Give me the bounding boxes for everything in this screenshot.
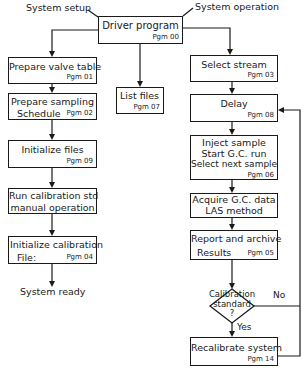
system-operation-label: System operation [195, 1, 279, 12]
list-files-label: List files [120, 90, 159, 101]
initialize-calibration-pgm: Pgm 04 [66, 253, 93, 261]
inject-sample-label-3: Select next sample [191, 159, 277, 170]
system-setup-label: System setup [26, 2, 91, 13]
prepare-sampling-label: Prepare sampling [9, 96, 96, 107]
initialize-files-box: Initialize files Pgm 09 [8, 140, 97, 168]
report-archive-label-2: Results [197, 247, 231, 258]
initialize-calibration-label: Initialize calibration [10, 239, 103, 250]
recalibrate-label: Recalibrate system [191, 342, 277, 353]
recalibrate-pgm: Pgm 14 [247, 355, 274, 363]
decision-label-3: ? [205, 309, 259, 318]
prepare-valve-table-label: Prepare valve table [9, 61, 96, 72]
driver-program-box: Driver program Pgm 00 [98, 16, 183, 44]
list-files-pgm: Pgm 07 [133, 103, 160, 111]
select-stream-pgm: Pgm 03 [247, 71, 274, 79]
run-calibration-box: Run calibration std manual operation [8, 188, 97, 214]
driver-program-pgm: Pgm 00 [152, 33, 179, 41]
acquire-gc-data-label-2: LAS method [191, 205, 277, 216]
system-ready-label: System ready [20, 286, 85, 297]
delay-box: Delay Pgm 08 [190, 94, 278, 122]
report-archive-pgm: Pgm 05 [247, 249, 274, 257]
initialize-files-pgm: Pgm 09 [66, 157, 93, 165]
recalibrate-box: Recalibrate system Pgm 14 [190, 337, 278, 366]
prepare-sampling-pgm: Pgm 02 [66, 109, 93, 117]
prepare-valve-table-box: Prepare valve table Pgm 01 [8, 57, 97, 84]
inject-sample-label: Inject sample [191, 137, 277, 148]
list-files-box: List files Pgm 07 [116, 87, 164, 114]
initialize-calibration-label-2: File: [17, 252, 36, 263]
acquire-gc-data-box: Acquire G.C. data LAS method [190, 193, 278, 218]
report-archive-box: Report and archive Results Pgm 05 [190, 230, 278, 260]
inject-sample-box: Inject sample Start G.C. run Select next… [190, 135, 278, 180]
initialize-files-label: Initialize files [9, 144, 96, 155]
prepare-valve-table-pgm: Pgm 01 [66, 73, 93, 81]
acquire-gc-data-label: Acquire G.C. data [191, 194, 277, 205]
prepare-sampling-box: Prepare sampling Schedule Pgm 02 [8, 93, 97, 120]
delay-label: Delay [191, 98, 277, 109]
run-calibration-label: Run calibration std [9, 190, 96, 201]
report-archive-label: Report and archive [191, 233, 277, 244]
inject-sample-label-2: Start G.C. run [191, 148, 277, 159]
decision-no-label: No [273, 290, 285, 300]
inject-sample-pgm: Pgm 06 [247, 171, 274, 179]
decision-yes-label: Yes [237, 322, 252, 332]
prepare-sampling-label-2: Schedule [17, 108, 61, 119]
delay-pgm: Pgm 08 [247, 111, 274, 119]
select-stream-label: Select stream [191, 59, 277, 70]
select-stream-box: Select stream Pgm 03 [190, 55, 278, 82]
initialize-calibration-box: Initialize calibration File: Pgm 04 [8, 236, 97, 264]
decision-label-1: Calibration [205, 290, 259, 299]
driver-program-title: Driver program [99, 20, 182, 31]
run-calibration-label-2: manual operation [9, 202, 96, 213]
